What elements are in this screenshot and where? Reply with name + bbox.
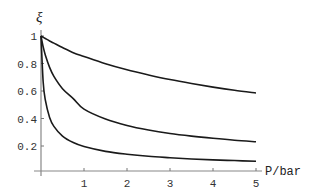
chart: 12345 0.20.40.60.81 P/bar ξ bbox=[0, 0, 321, 196]
x-tick-label: 3 bbox=[167, 178, 174, 190]
y-tick-label: 0.6 bbox=[17, 86, 37, 98]
x-tick-label: 1 bbox=[81, 178, 88, 190]
y-tick-label: 1 bbox=[30, 31, 37, 43]
x-tick-label: 5 bbox=[253, 178, 260, 190]
x-axis-label: P/bar bbox=[265, 165, 301, 179]
x-tick-label: 4 bbox=[210, 178, 217, 190]
y-tick-label: 0.8 bbox=[17, 59, 37, 71]
curves bbox=[41, 36, 256, 161]
y-tick-label: 0.4 bbox=[17, 114, 37, 126]
y-ticks: 0.20.40.60.81 bbox=[17, 31, 44, 153]
series-line-curve-1 bbox=[41, 36, 256, 93]
y-axis-label: ξ bbox=[36, 9, 43, 25]
x-tick-label: 2 bbox=[124, 178, 131, 190]
y-tick-label: 0.2 bbox=[17, 141, 37, 153]
